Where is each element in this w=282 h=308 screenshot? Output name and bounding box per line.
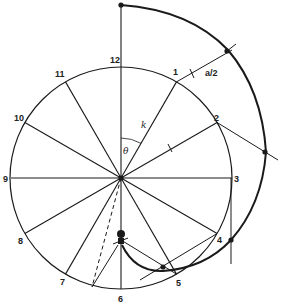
hour-label-7: 7 bbox=[60, 277, 65, 287]
spiral-curve bbox=[121, 5, 266, 271]
hour-label-3: 3 bbox=[234, 174, 239, 184]
hour-label-6: 6 bbox=[118, 294, 123, 304]
hour-label-4: 4 bbox=[217, 235, 222, 245]
half-a-label: a/2 bbox=[205, 68, 218, 78]
hour-label-8: 8 bbox=[18, 236, 23, 246]
dashed-construction-line bbox=[92, 178, 121, 287]
pivot-marker bbox=[117, 230, 125, 244]
radius-k-label: k bbox=[141, 120, 146, 130]
diagram-canvas: 12 1 2 3 4 5 6 7 8 9 10 11 k θ a/2 bbox=[0, 0, 282, 308]
hour-label-12: 12 bbox=[110, 55, 120, 65]
hour-label-2: 2 bbox=[214, 113, 219, 123]
tick-marks bbox=[168, 44, 236, 152]
hour-label-9: 9 bbox=[3, 174, 8, 184]
hour-label-11: 11 bbox=[55, 69, 65, 79]
hour-label-5: 5 bbox=[176, 278, 181, 288]
hour-label-1: 1 bbox=[173, 67, 178, 77]
clock-spiral-diagram: 12 1 2 3 4 5 6 7 8 9 10 11 k θ a/2 bbox=[0, 0, 282, 308]
theta-arc bbox=[121, 138, 141, 143]
theta-label: θ bbox=[123, 146, 129, 156]
hour-label-10: 10 bbox=[14, 113, 24, 123]
radial-lines bbox=[11, 5, 232, 289]
